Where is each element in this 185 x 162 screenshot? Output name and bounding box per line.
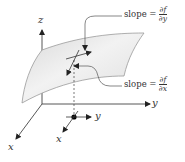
- base-x-arrow: [63, 111, 78, 132]
- slope-dx-text: slope =: [124, 79, 157, 89]
- slope-dx-denominator: ∂x: [159, 85, 167, 93]
- slope-dx-fraction: ∂f ∂x: [159, 76, 168, 93]
- y-axis-label: y: [152, 98, 158, 108]
- slope-dy-annotation: slope = ∂f ∂y: [124, 6, 167, 23]
- z-axis-label: z: [38, 15, 43, 25]
- base-y-label: y: [95, 111, 101, 121]
- slope-dy-fraction: ∂f ∂y: [159, 6, 168, 23]
- base-x-label: x: [56, 134, 62, 144]
- partial-derivative-diagram: z y x y x slope = ∂f ∂y slope = ∂f ∂x: [0, 0, 185, 162]
- x-axis: [16, 104, 42, 139]
- slope-dx-annotation: slope = ∂f ∂x: [124, 76, 167, 93]
- x-axis-label: x: [8, 142, 14, 152]
- slope-dy-text: slope =: [124, 9, 157, 19]
- slope-dy-denominator: ∂y: [159, 15, 167, 23]
